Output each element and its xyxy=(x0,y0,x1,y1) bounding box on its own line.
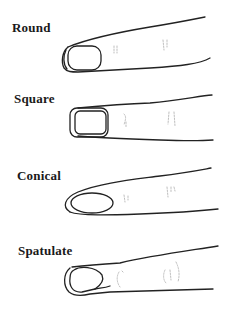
round-finger-illustration xyxy=(62,17,210,72)
conical-finger-illustration xyxy=(65,168,218,215)
spatulate-finger-illustration xyxy=(65,246,218,295)
square-finger-illustration xyxy=(70,95,213,141)
